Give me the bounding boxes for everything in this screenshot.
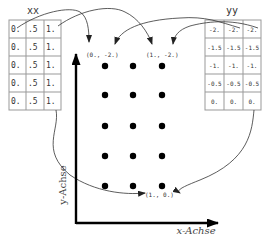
axes: x-Achse y-Achse bbox=[57, 54, 218, 236]
yy-cell: -0.5 bbox=[226, 80, 241, 87]
xx-cell: 0. bbox=[11, 43, 21, 52]
xx-matrix: xx 0. .5 1. 0. .5 1. 0. .5 1. 0. .5 1. 0… bbox=[9, 5, 61, 110]
xx-cell: .5 bbox=[28, 25, 38, 34]
xx-cell: .5 bbox=[28, 97, 38, 106]
xx-label: xx bbox=[27, 5, 39, 16]
xx-cell: 0. bbox=[11, 61, 21, 70]
yy-cell: -0.5 bbox=[207, 80, 222, 87]
y-axis-label: y-Achse bbox=[57, 165, 68, 205]
xx-cell: 1. bbox=[46, 61, 56, 70]
yy-cell: -1. bbox=[228, 62, 239, 69]
xx-cell: .5 bbox=[28, 79, 38, 88]
yy-label: yy bbox=[226, 5, 238, 16]
point-label-1-neg2: (1., -2.) bbox=[146, 51, 179, 58]
xx-cell: .5 bbox=[28, 61, 38, 70]
yy-cell: -1.5 bbox=[207, 44, 222, 51]
arrow-xx02 bbox=[58, 8, 152, 44]
yy-cell: -1. bbox=[209, 62, 220, 69]
yy-cell: 0. bbox=[248, 98, 255, 105]
xx-cell: 1. bbox=[46, 79, 56, 88]
yy-cell: -0.5 bbox=[245, 80, 260, 87]
xx-cell: 0. bbox=[11, 79, 21, 88]
xx-cell: 1. bbox=[46, 43, 56, 52]
point-label-1-0: (1., 0.) bbox=[145, 191, 174, 198]
x-axis-label: x-Achse bbox=[176, 225, 215, 236]
xx-cell: .5 bbox=[28, 43, 38, 52]
meshgrid-diagram: xx 0. .5 1. 0. .5 1. 0. .5 1. 0. .5 1. 0… bbox=[0, 0, 264, 236]
yy-cell: 0. bbox=[211, 98, 218, 105]
point-label-0-neg2: (0., -2.) bbox=[86, 51, 119, 58]
yy-cell: 0. bbox=[230, 98, 237, 105]
xx-cell: 0. bbox=[11, 97, 21, 106]
xx-cell: 1. bbox=[46, 97, 56, 106]
grid-points bbox=[102, 63, 165, 189]
yy-cell: -2. bbox=[209, 26, 220, 33]
arrow-yy42 bbox=[179, 110, 254, 193]
xx-cell: 1. bbox=[46, 25, 56, 34]
yy-cell: -1. bbox=[247, 62, 258, 69]
yy-cell: -1.5 bbox=[245, 44, 260, 51]
yy-cell: -1.5 bbox=[226, 44, 241, 51]
